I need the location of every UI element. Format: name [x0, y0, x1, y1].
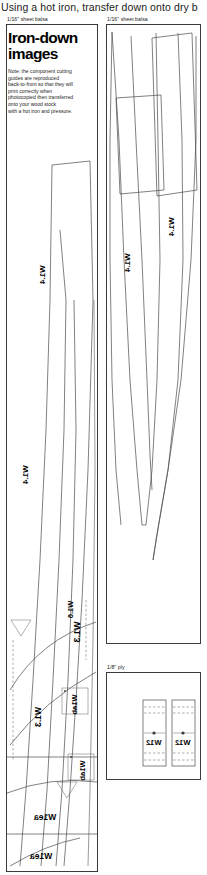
part-label-w1ea-upper: W1ea	[34, 812, 56, 822]
cutting-plan-sheet: Using a hot iron, transfer down onto dry…	[0, 0, 207, 875]
part-label-w14-left-lower: W1.4	[21, 465, 30, 484]
part-label-w13-left-lower: W1.3	[33, 707, 43, 727]
part-label-w14-left-upper: W1.4	[38, 265, 47, 284]
part-label-w12-left: W12	[146, 738, 161, 747]
part-label-w1ab-upper: W1ab	[70, 694, 79, 714]
part-label-w16-left: W1.6	[66, 601, 75, 619]
part-label-w12-right: W12	[175, 738, 190, 747]
part-label-w13-left-upper: W1.3	[72, 621, 82, 642]
part-label-w1ea-lower: W1ea	[30, 851, 52, 861]
part-label-w1ab-lower: W1ab	[78, 760, 87, 780]
part-label-w14-right-left: W1.4	[123, 253, 132, 272]
part-label-w14-right-right: W1.4	[167, 217, 176, 236]
